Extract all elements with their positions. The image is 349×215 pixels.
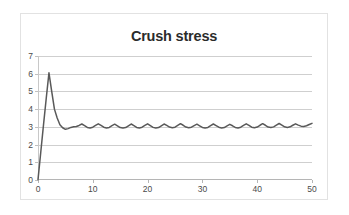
- x-tick-mark: [93, 180, 94, 183]
- x-tick-mark: [312, 180, 313, 183]
- x-tick-mark: [257, 180, 258, 183]
- x-tick-mark: [202, 180, 203, 183]
- x-tick-label: 10: [88, 184, 97, 194]
- y-tick-label: 1: [28, 157, 33, 167]
- y-tick-label: 4: [28, 104, 33, 114]
- x-tick-label: 30: [198, 184, 207, 194]
- x-tick-mark: [148, 180, 149, 183]
- x-tick-label: 50: [307, 184, 316, 194]
- plot-area: 01234567 01020304050: [38, 56, 312, 180]
- x-tick-label: 20: [143, 184, 152, 194]
- chart-title: Crush stress: [21, 28, 327, 44]
- chart-container: Crush stress 01234567 01020304050: [20, 13, 328, 200]
- y-tick-label: 5: [28, 86, 33, 96]
- y-tick-label: 7: [28, 51, 33, 61]
- y-tick-label: 2: [28, 140, 33, 150]
- y-tick-label: 0: [28, 175, 33, 185]
- y-tick-label: 6: [28, 69, 33, 79]
- x-tick-label: 0: [36, 184, 41, 194]
- x-tick-mark: [38, 180, 39, 183]
- x-tick-label: 40: [252, 184, 261, 194]
- series-crush-stress: [38, 56, 312, 180]
- y-tick-label: 3: [28, 122, 33, 132]
